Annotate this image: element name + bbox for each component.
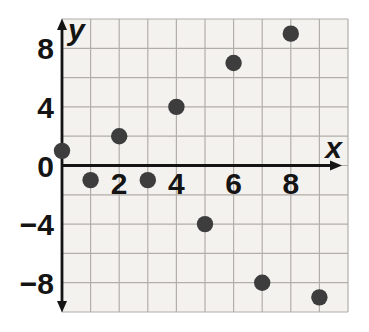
x-tick-label: 4	[168, 167, 185, 200]
scatter-plot: 840−4−82468yx	[0, 0, 369, 332]
data-point	[140, 172, 156, 188]
y-tick-label: −8	[20, 267, 54, 300]
data-point	[111, 128, 127, 144]
data-point	[225, 55, 241, 71]
y-tick-label: 4	[37, 91, 54, 124]
y-tick-label: −4	[20, 208, 55, 241]
x-axis-label: x	[323, 131, 343, 164]
y-tick-label: 0	[37, 150, 54, 183]
data-point	[168, 99, 184, 115]
data-point	[311, 289, 327, 305]
data-point	[54, 143, 70, 159]
data-point	[82, 172, 98, 188]
data-point	[283, 25, 299, 41]
x-tick-label: 2	[111, 167, 128, 200]
data-point	[197, 216, 213, 232]
x-tick-label: 8	[282, 167, 299, 200]
data-point	[254, 275, 270, 291]
scatter-plot-figure: 840−4−82468yx	[0, 0, 369, 332]
y-axis-label: y	[66, 13, 86, 46]
y-tick-label: 8	[37, 32, 54, 65]
x-tick-label: 6	[225, 167, 242, 200]
